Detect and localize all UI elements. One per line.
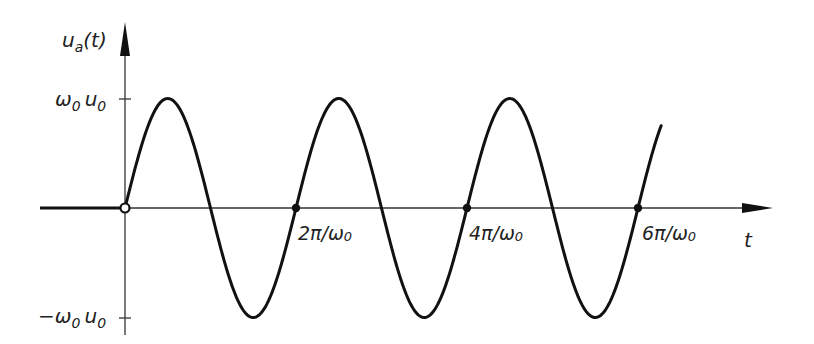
- y-tick-label-positive: ω0u0: [55, 87, 106, 114]
- crossing-marker-4pi: [463, 204, 471, 212]
- x-mark-label-6pi: 6π/ω0: [642, 222, 696, 244]
- y-axis-label: ua(t): [62, 28, 107, 55]
- sine-response-diagram: ua(t) ω0u0 −ω0u0 2π/ω0 4π/ω0 6π/ω0 t: [0, 0, 814, 344]
- y-axis-arrow-icon: [120, 22, 130, 56]
- crossing-marker-6pi: [634, 204, 642, 212]
- crossing-marker-2pi: [292, 204, 300, 212]
- x-mark-label-2pi: 2π/ω0: [298, 222, 352, 244]
- origin-marker: [121, 204, 130, 213]
- y-tick-label-negative: −ω0u0: [38, 304, 106, 331]
- x-axis-label: t: [744, 228, 753, 252]
- x-axis-arrow-icon: [742, 203, 773, 213]
- x-mark-label-4pi: 4π/ω0: [469, 222, 523, 244]
